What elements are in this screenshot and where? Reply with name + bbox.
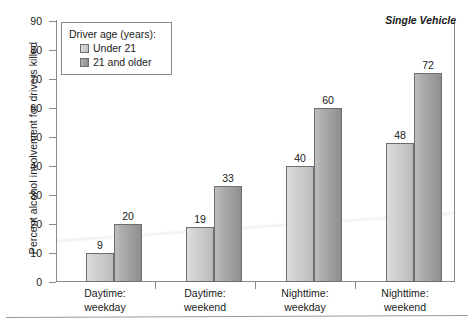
legend-label-under-21: Under 21 xyxy=(93,42,136,55)
y-tick-50 xyxy=(49,137,56,138)
bar-under21-daytime-weekday xyxy=(86,253,114,282)
bar-21older-nighttime-weekday xyxy=(314,108,342,282)
x-group-label-line1: Daytime: xyxy=(150,287,260,301)
legend-swatch-icon-under-21 xyxy=(80,44,89,53)
y-tick-20 xyxy=(49,224,56,225)
bar-under21-daytime-weekend xyxy=(186,227,214,282)
y-tick-label-40: 40 xyxy=(2,161,42,172)
bar-chart-figure: Percent alcohol involvement for drivers … xyxy=(0,0,474,327)
chart-annotation-single-vehicle: Single Vehicle xyxy=(385,14,456,26)
y-tick-0 xyxy=(49,282,56,283)
x-group-label-line1: Nighttime: xyxy=(250,287,360,301)
bar-value-21older-nighttime-weekend: 72 xyxy=(408,60,448,71)
x-group-label-daytime-weekday: Daytime: weekday xyxy=(50,287,160,314)
legend-title: Driver age (years): xyxy=(62,27,171,41)
y-tick-label-50: 50 xyxy=(2,132,42,143)
y-tick-label-10: 10 xyxy=(2,248,42,259)
y-tick-40 xyxy=(49,166,56,167)
legend-swatch-icon-21-and-older xyxy=(80,58,89,67)
x-group-label-nighttime-weekday: Nighttime: weekday xyxy=(250,287,360,314)
x-group-label-line2: weekend xyxy=(350,301,460,315)
bar-under21-nighttime-weekend xyxy=(386,143,414,282)
x-group-label-line1: Nighttime: xyxy=(350,287,460,301)
page-bottom-rule xyxy=(6,315,468,318)
y-tick-label-60: 60 xyxy=(2,103,42,114)
y-tick-90 xyxy=(49,21,56,22)
x-group-label-daytime-weekend: Daytime: weekend xyxy=(150,287,260,314)
y-tick-label-70: 70 xyxy=(2,74,42,85)
y-tick-80 xyxy=(49,50,56,51)
bar-value-21older-daytime-weekday: 20 xyxy=(108,211,148,222)
y-tick-30 xyxy=(49,195,56,196)
y-tick-label-20: 20 xyxy=(2,219,42,230)
x-group-label-line2: weekend xyxy=(150,301,260,315)
legend: Driver age (years): Under 21 21 and olde… xyxy=(61,22,172,75)
x-group-label-line2: weekday xyxy=(50,301,160,315)
x-group-label-line1: Daytime: xyxy=(50,287,160,301)
y-tick-label-30: 30 xyxy=(2,190,42,201)
legend-item-21-and-older: 21 and older xyxy=(62,56,171,69)
bar-21older-daytime-weekend xyxy=(214,186,242,282)
x-group-label-nighttime-weekend: Nighttime: weekend xyxy=(350,287,460,314)
x-group-label-line2: weekday xyxy=(250,301,360,315)
bar-21older-daytime-weekday xyxy=(114,224,142,282)
bar-value-21older-daytime-weekend: 33 xyxy=(208,173,248,184)
bar-under21-nighttime-weekday xyxy=(286,166,314,282)
y-tick-label-80: 80 xyxy=(2,45,42,56)
y-tick-60 xyxy=(49,108,56,109)
y-tick-label-0: 0 xyxy=(2,277,42,288)
bar-value-21older-nighttime-weekday: 60 xyxy=(308,95,348,106)
legend-label-21-and-older: 21 and older xyxy=(93,56,151,69)
legend-item-under-21: Under 21 xyxy=(62,42,171,55)
y-tick-10 xyxy=(49,253,56,254)
y-tick-70 xyxy=(49,79,56,80)
bar-21older-nighttime-weekend xyxy=(414,73,442,282)
y-tick-label-90: 90 xyxy=(2,16,42,27)
